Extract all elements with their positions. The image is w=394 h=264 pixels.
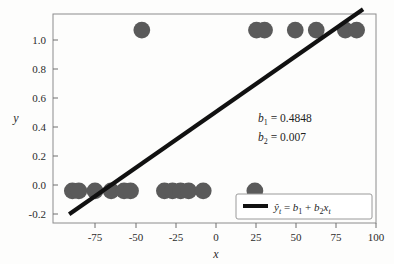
annotation-b1-value: 0.4848 (280, 112, 312, 124)
x-tick-labels: -75 -50 -25 0 25 50 75 100 (88, 231, 385, 243)
y-tick-label: 0.6 (32, 92, 46, 104)
annotation-b2-value: 0.007 (280, 131, 306, 143)
x-tick-label: 75 (331, 231, 343, 243)
scatter-point (287, 22, 304, 39)
scatter-point (122, 182, 139, 199)
scatter-point (70, 182, 87, 199)
y-tick-label: 0.4 (32, 121, 46, 133)
scatter-point (195, 182, 212, 199)
x-tick-label: 0 (213, 231, 219, 243)
x-tick-label: -50 (129, 231, 144, 243)
y-tick-label: 0.0 (32, 179, 46, 191)
x-tick-marks (95, 223, 376, 228)
y-tick-labels: 1.0 0.8 0.6 0.4 0.2 0.0 -0.2 (29, 34, 47, 220)
scatter-point (256, 22, 273, 39)
chart-figure: 1.0 0.8 0.6 0.4 0.2 0.0 -0.2 -75 -50 -25… (0, 0, 394, 264)
scatter-point (133, 22, 150, 39)
x-tick-label: 25 (251, 231, 263, 243)
y-tick-label: 1.0 (32, 34, 46, 46)
y-tick-label: -0.2 (29, 208, 46, 220)
scatter-plot: 1.0 0.8 0.6 0.4 0.2 0.0 -0.2 -75 -50 -25… (0, 0, 394, 264)
legend[interactable]: ŷt = b1 + b2xt (236, 194, 372, 219)
scatter-point (180, 182, 197, 199)
y-tick-label: 0.8 (32, 63, 46, 75)
x-tick-label: 50 (291, 231, 303, 243)
x-tick-label: -75 (88, 231, 103, 243)
x-axis-title: x (212, 247, 219, 261)
scatter-point (348, 22, 365, 39)
x-tick-label: 100 (368, 231, 385, 243)
y-tick-label: 0.2 (32, 150, 46, 162)
y-axis-title: y (12, 111, 19, 125)
x-tick-label: -25 (169, 231, 184, 243)
